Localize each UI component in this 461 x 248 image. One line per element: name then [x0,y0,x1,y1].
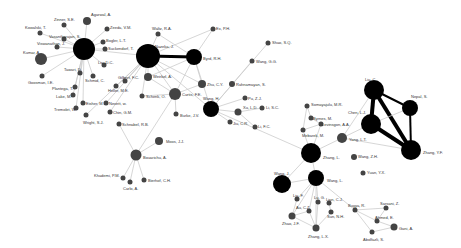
node-yang_lt [337,133,347,143]
node-goosman [40,74,45,79]
node-gani [391,224,398,231]
node-lu_g [316,200,321,205]
node-label: Curtis, F.E. [182,93,202,97]
node-zhao_jf [289,213,296,220]
node-wang_l [308,170,324,186]
node-wright [84,113,89,118]
node-suckendorf [103,47,108,52]
node-label: Rahnamayan, S. [236,83,266,87]
edge-mebarek-somayajulu [303,106,307,130]
node-yuan [361,171,366,176]
node-label: Carlo, A. [123,187,138,191]
node-mebarek [301,128,306,133]
node-label: Levinsgon, A.A. [322,123,350,127]
node-label: Bouarichu, A. [143,156,167,160]
node-label: Plantega, T. [52,87,73,91]
node-wang_zh [351,154,357,160]
node-label: Ex, P.H. [216,27,230,31]
node-label: Shao, S.Q. [272,41,292,45]
node-wang_h [203,101,219,117]
node-label: Jiu, C.R. [233,122,248,126]
node-burke [174,112,179,117]
node-label: Zhang, Y.F. [423,151,443,155]
node-label: Khademi, P.M. [94,174,120,178]
node-moos [155,137,163,145]
node-ex_ph [211,27,216,32]
node-label: Gilbert, F.C. [118,76,139,80]
node-label: Wang, Z.H. [358,155,378,159]
node-walz [156,32,161,37]
node-schnabel [117,122,122,127]
node-nepal [402,100,418,116]
node-weirkel [144,73,152,81]
node-label: Zhao, J.F. [282,222,300,226]
node-label: Lian, C.J. [326,198,343,202]
node-nevett [104,101,109,106]
node-carlo [128,180,133,185]
node-label: Li, S.C. [266,106,279,110]
node-label: Nevett, w. [109,102,127,106]
node-label: Pu, Z.J. [248,97,262,101]
edge-buyya-sarsani [355,208,386,210]
node-zeeda [105,27,110,32]
node-jiu_cr [228,120,233,125]
node-label: Zinner, S.E. [54,18,75,22]
node-label: Kumar, A. [23,51,40,55]
node-wang_j [273,175,291,193]
node-sarsani [384,206,389,211]
node-label: Moos, J.J. [166,140,184,144]
node-label: Agarwal, A. [91,13,111,17]
node-bogler [101,40,106,45]
node-chin [108,110,113,115]
node-kowalski [38,31,43,36]
node-label: Wang, J. [274,172,290,176]
node-label: Tremolet, W. [54,108,77,112]
node-bierhof [142,178,147,183]
node-label: Zhang, L. [323,156,340,160]
node-label: Yuan, Y.X. [367,171,385,175]
node-label: Liu, C. [365,78,377,82]
edge-wang_h-zhang_l [211,109,311,153]
node-rahnamayan [229,81,235,87]
node-plantega [73,85,78,90]
node-label: Heller, M.E. [108,89,129,93]
node-label: Vasantharajan, S. [49,35,81,39]
node-label: Chin, G.M. [113,111,132,115]
node-label: Wang, G.G. [256,60,277,64]
node-bouarichu [131,150,142,161]
node-byrd [186,49,202,65]
node-label: Yang, L.T. [349,138,367,142]
edge-buyya-ahmed [355,210,377,221]
node-zhang_lx [313,225,320,232]
node-label: Somayajulu, M.R. [311,103,343,107]
node-eisher [81,101,86,106]
node-zhang_l [301,143,321,163]
node-pu_zj [243,96,248,101]
edge-levinsgon-mebarek [303,124,321,130]
node-label: Liu, D.C. [98,61,114,65]
node-label: Buyya, R. [348,204,365,208]
node-label: Li, F.C. [258,125,270,129]
node-label: Lu, G. [314,196,325,200]
node-schenk [140,94,145,99]
node-label: Burke, J.V. [180,114,199,118]
node-label: Xu, L.D. [243,106,257,110]
node-somayajulu [305,104,310,109]
node-label: Sun, N.H. [327,215,344,219]
node-liu_c [364,80,384,100]
node-label: Wright, S.J. [83,121,104,125]
node-chen_lj [361,114,381,134]
node-label: Schenk, O. [146,95,166,99]
node-hub1 [73,38,95,60]
node-xu_ld [235,109,242,116]
node-buyya [353,208,358,213]
node-zinner [62,23,67,28]
node-label: Ahmed, E. [375,216,394,220]
node-zhu_cy [198,80,206,88]
node-label: Zhang, L.X. [308,235,329,239]
node-label: Viswanathan, J. [37,42,65,46]
node-label: Tawari, D. [64,68,82,72]
node-label: Weirkel, A. [153,75,172,79]
node-abolfazli [370,230,375,235]
node-shao [266,41,271,46]
